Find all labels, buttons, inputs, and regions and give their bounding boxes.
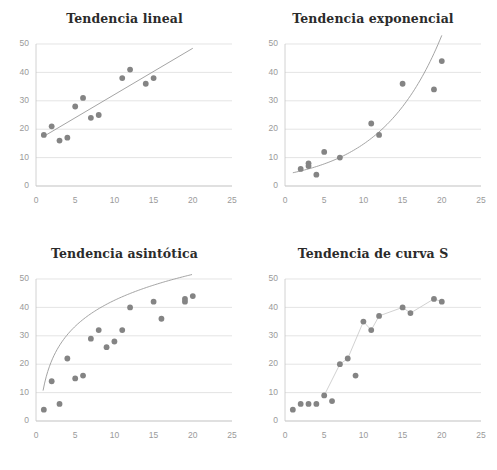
svg-text:10: 10 [20,152,30,162]
svg-text:15: 15 [149,430,159,440]
svg-text:50: 50 [20,38,30,48]
svg-text:0: 0 [24,415,29,425]
panel-asymptotic: Tendencia asintótica 0102030405005101520… [0,235,249,470]
svg-text:5: 5 [73,195,78,205]
plot-linear: 010203040500510152025 [0,0,249,235]
svg-text:0: 0 [34,195,39,205]
svg-text:20: 20 [269,123,279,133]
panel-scurve: Tendencia de curva S 0102030405005101520… [249,235,497,470]
svg-text:10: 10 [269,152,279,162]
svg-text:50: 50 [269,38,279,48]
svg-text:30: 30 [20,330,30,340]
svg-text:5: 5 [322,195,327,205]
svg-text:15: 15 [398,430,408,440]
chart-grid: Tendencia lineal 010203040500510152025 T… [0,0,497,470]
svg-text:0: 0 [273,180,278,190]
svg-text:25: 25 [476,195,486,205]
svg-text:10: 10 [269,387,279,397]
svg-text:40: 40 [20,67,30,77]
svg-text:20: 20 [20,358,30,368]
svg-text:30: 30 [269,95,279,105]
panel-linear: Tendencia lineal 010203040500510152025 [0,0,249,235]
svg-text:20: 20 [437,430,447,440]
svg-text:20: 20 [269,358,279,368]
svg-text:10: 10 [110,195,120,205]
svg-text:10: 10 [359,430,369,440]
svg-text:50: 50 [20,273,30,283]
svg-text:0: 0 [24,180,29,190]
svg-text:40: 40 [20,302,30,312]
plot-scurve: 010203040500510152025 [249,235,497,470]
svg-text:5: 5 [322,430,327,440]
svg-text:50: 50 [269,273,279,283]
svg-text:20: 20 [20,123,30,133]
svg-text:0: 0 [283,195,288,205]
svg-text:30: 30 [269,330,279,340]
svg-text:0: 0 [273,415,278,425]
plot-asymptotic: 010203040500510152025 [0,235,249,470]
svg-text:0: 0 [283,430,288,440]
svg-text:15: 15 [398,195,408,205]
svg-text:25: 25 [476,430,486,440]
svg-text:5: 5 [73,430,78,440]
svg-text:30: 30 [20,95,30,105]
svg-text:10: 10 [20,387,30,397]
svg-text:10: 10 [110,430,120,440]
svg-text:25: 25 [227,195,237,205]
svg-text:15: 15 [149,195,159,205]
plot-exponential: 010203040500510152025 [249,0,497,235]
svg-text:20: 20 [437,195,447,205]
svg-text:40: 40 [269,302,279,312]
svg-text:40: 40 [269,67,279,77]
svg-text:20: 20 [188,195,198,205]
svg-text:0: 0 [34,430,39,440]
svg-text:20: 20 [188,430,198,440]
svg-text:10: 10 [359,195,369,205]
svg-text:25: 25 [227,430,237,440]
panel-exponential: Tendencia exponencial 010203040500510152… [249,0,497,235]
